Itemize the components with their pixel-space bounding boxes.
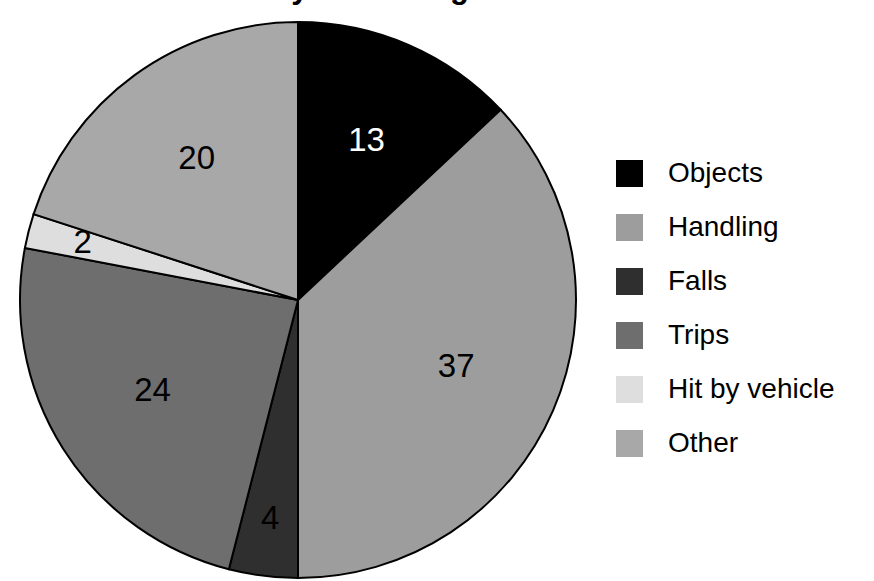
legend-label-handling: Handling xyxy=(668,213,779,241)
pie-slice-value-falls: 4 xyxy=(261,499,279,536)
legend-item-falls[interactable]: Falls xyxy=(616,254,874,308)
legend-label-trips: Trips xyxy=(668,321,729,349)
chart-title: Accidents by Percentage xyxy=(0,0,600,6)
legend-swatch-icon-trips xyxy=(616,322,643,349)
pie-slice-group xyxy=(20,22,576,578)
pie-slice-value-handling: 37 xyxy=(438,347,475,384)
pie-slice-value-hit-by-vehicle: 2 xyxy=(73,223,91,260)
legend-label-falls: Falls xyxy=(668,267,727,295)
pie-slice-value-other: 20 xyxy=(178,139,215,176)
legend-label-objects: Objects xyxy=(668,159,763,187)
chart-legend: ObjectsHandlingFallsTripsHit by vehicleO… xyxy=(616,146,874,470)
pie-slice-value-objects: 13 xyxy=(348,121,385,158)
legend-item-trips[interactable]: Trips xyxy=(616,308,874,362)
legend-swatch-icon-falls xyxy=(616,268,643,295)
legend-label-hit-by-vehicle: Hit by vehicle xyxy=(668,375,835,403)
pie-slice-value-trips: 24 xyxy=(134,371,171,408)
legend-label-other: Other xyxy=(668,429,738,457)
legend-swatch-icon-handling xyxy=(616,214,643,241)
legend-item-objects[interactable]: Objects xyxy=(616,146,874,200)
legend-item-other[interactable]: Other xyxy=(616,416,874,470)
pie-svg: 1337424220 xyxy=(2,20,594,580)
legend-swatch-icon-other xyxy=(616,430,643,457)
pie-plot-area: 1337424220 xyxy=(2,20,594,580)
legend-item-hit-by-vehicle[interactable]: Hit by vehicle xyxy=(616,362,874,416)
legend-swatch-icon-objects xyxy=(616,160,643,187)
legend-item-handling[interactable]: Handling xyxy=(616,200,874,254)
pie-chart-figure: Accidents by Percentage 1337424220 Objec… xyxy=(0,0,874,581)
legend-swatch-icon-hit-by-vehicle xyxy=(616,376,643,403)
